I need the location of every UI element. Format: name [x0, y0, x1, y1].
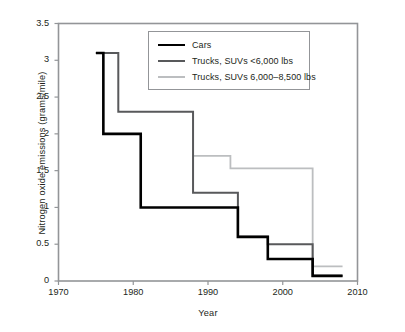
legend-label-light-trucks: Trucks, SUVs <6,000 lbs	[192, 56, 293, 66]
y-tick-label: 3.5	[9, 19, 49, 28]
light-trucks-line-swatch	[158, 60, 185, 62]
x-tick-label: 1990	[178, 288, 238, 297]
legend-item-heavy-trucks: Trucks, SUVs 6,000–8,500 lbs	[149, 69, 309, 85]
heavy-trucks-line-swatch	[158, 76, 185, 78]
legend-label-cars: Cars	[192, 40, 211, 50]
y-axis-title: Nitrogen oxide emissions (grams/mile)	[37, 33, 47, 273]
x-tick-label: 1970	[29, 288, 89, 297]
legend-item-cars: Cars	[149, 37, 309, 53]
chart-legend: Cars Trucks, SUVs <6,000 lbs Trucks, SUV…	[148, 31, 310, 90]
cars-line-swatch	[158, 44, 185, 47]
x-tick-label: 1980	[103, 288, 163, 297]
x-axis-title: Year	[58, 308, 358, 318]
x-tick-label: 2010	[328, 288, 388, 297]
legend-item-light-trucks: Trucks, SUVs <6,000 lbs	[149, 53, 309, 69]
chart-figure: 00.511.522.533.5 19701980199020002010 Ni…	[0, 0, 405, 332]
x-tick-label: 2000	[253, 288, 313, 297]
y-tick-label: 0	[9, 276, 49, 285]
legend-label-heavy-trucks: Trucks, SUVs 6,000–8,500 lbs	[192, 72, 316, 82]
